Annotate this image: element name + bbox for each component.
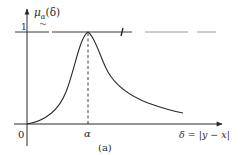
tick-mark: [121, 28, 123, 36]
figure-caption: (a): [98, 142, 112, 153]
x-axis-label: δ = |y − x|: [179, 129, 230, 141]
membership-function-diagram: μα(δ) 1 0 α δ = |y − x| (a): [0, 0, 246, 155]
alpha-tick-label: α: [84, 128, 91, 139]
y-axis-label: μα(δ): [34, 6, 60, 21]
membership-curve: [27, 32, 183, 124]
y-tick-one: 1: [21, 22, 27, 32]
tilde-mark: [40, 23, 46, 25]
origin-label: 0: [18, 129, 24, 140]
